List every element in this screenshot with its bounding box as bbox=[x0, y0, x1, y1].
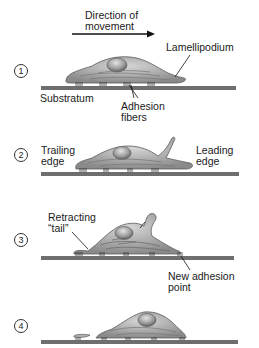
cell-body bbox=[66, 57, 186, 83]
substratum-label: Substratum bbox=[40, 93, 94, 104]
step-number-2: 2 bbox=[14, 148, 28, 162]
adhesion-fibers-label-line2: fibers bbox=[121, 112, 147, 123]
step-number-4: 4 bbox=[14, 319, 28, 333]
nucleus bbox=[138, 314, 156, 327]
step-number-1: 1 bbox=[14, 64, 28, 78]
nucleus bbox=[107, 58, 127, 72]
new-adhesion-point-label-line2: point bbox=[168, 282, 191, 293]
detached-tail-fragment bbox=[74, 334, 90, 337]
substratum-bar bbox=[41, 86, 236, 90]
nucleus bbox=[115, 227, 133, 240]
substratum-bar bbox=[41, 256, 234, 260]
lamellipodium-label: Lamellipodium bbox=[166, 42, 234, 53]
substratum-bar bbox=[41, 172, 239, 176]
leading-edge-label-line2: edge bbox=[196, 156, 219, 167]
step-4-illustration bbox=[41, 312, 238, 344]
retracting-tail-label-line2: “tail” bbox=[48, 223, 68, 234]
substratum-bar bbox=[41, 340, 238, 344]
step-number-3: 3 bbox=[14, 233, 28, 247]
direction-label-line2: movement bbox=[85, 21, 134, 32]
nucleus bbox=[113, 147, 131, 160]
trailing-edge-label-line2: edge bbox=[41, 156, 64, 167]
